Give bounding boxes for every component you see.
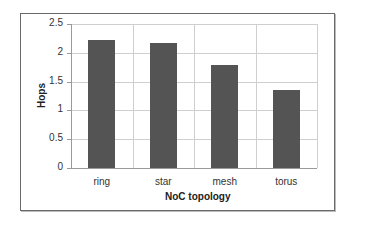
y-tick-label: 2.5 <box>39 17 63 28</box>
x-axis <box>71 168 317 169</box>
y-tick-label: 0.5 <box>39 132 63 143</box>
plot-area <box>71 24 317 168</box>
y-tick-label: 2 <box>39 46 63 57</box>
x-axis-title: NoC topology <box>165 191 231 202</box>
y-axis-title: Hops <box>36 81 47 111</box>
x-tick-label-star: star <box>133 176 193 187</box>
x-tick-label-torus: torus <box>256 176 316 187</box>
bar-star <box>150 43 177 168</box>
bar-mesh <box>211 65 238 168</box>
y-axis <box>71 24 72 168</box>
bar-ring <box>88 40 115 168</box>
gridline-vertical <box>133 24 134 168</box>
x-tick-label-mesh: mesh <box>195 176 255 187</box>
gridline-vertical <box>256 24 257 168</box>
y-tick-label: 0 <box>39 161 63 172</box>
gridline-vertical <box>317 24 318 168</box>
gridline-vertical <box>194 24 195 168</box>
x-tick-label-ring: ring <box>72 176 132 187</box>
bar-torus <box>273 90 300 168</box>
